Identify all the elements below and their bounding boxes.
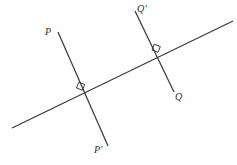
label-point-Q-prime: Q' [137,4,147,14]
line-Q-prime-Q [135,11,174,92]
label-point-P-prime: P' [94,145,103,155]
transversal-line [12,21,233,128]
geometry-figure: P P' Q' Q [0,0,237,165]
figure-canvas [0,0,237,165]
label-point-Q: Q [175,92,182,102]
label-point-P: P [45,27,51,37]
